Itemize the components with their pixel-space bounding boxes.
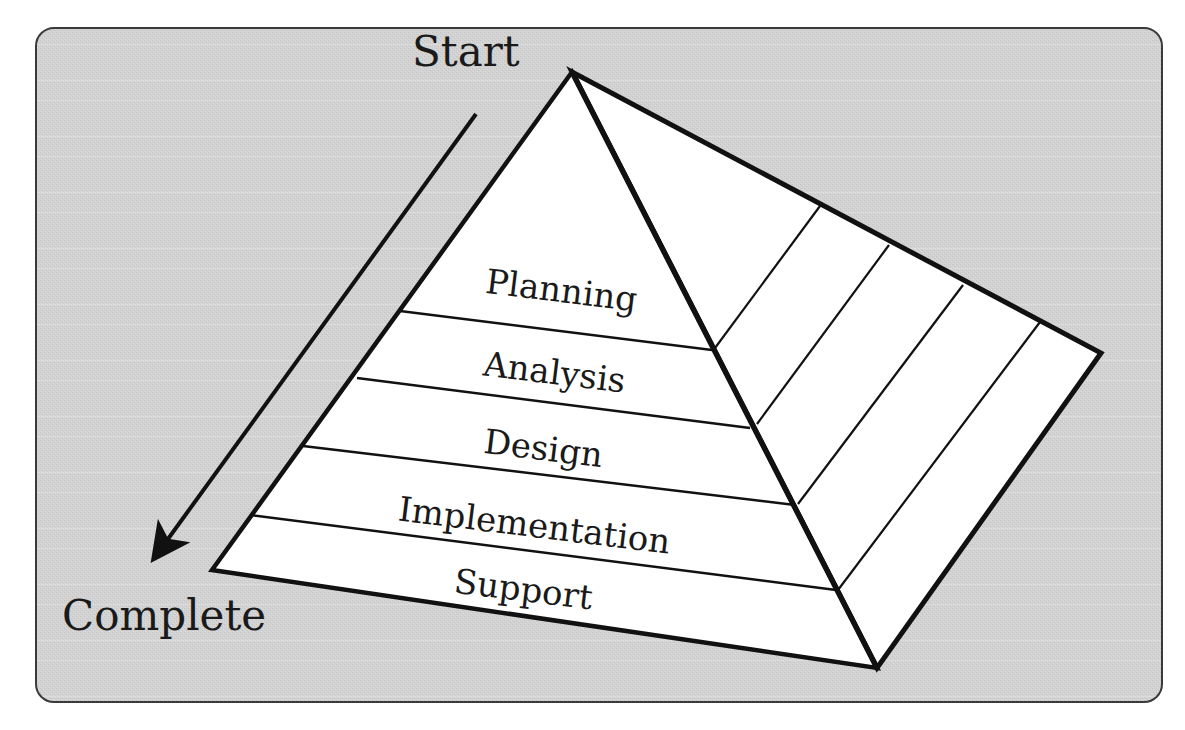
complete-label: Complete <box>62 591 266 640</box>
pyramid-figure: Planning Analysis Design Implementation … <box>0 0 1185 730</box>
start-label: Start <box>412 27 520 76</box>
